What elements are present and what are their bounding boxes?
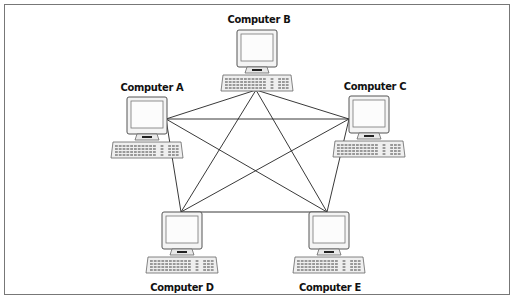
- computer-label: Computer E: [299, 281, 362, 294]
- computer-e: Computer E: [293, 212, 365, 294]
- screen: [166, 216, 198, 243]
- computers: Computer AComputer BComputer CComputer D…: [111, 13, 406, 294]
- connection-c-e: [327, 119, 349, 212]
- screen: [313, 216, 345, 243]
- computer-label: Computer A: [121, 81, 185, 94]
- computer-b: Computer B: [221, 13, 293, 91]
- computer-label: Computer C: [344, 80, 407, 93]
- drive-slot: [324, 251, 334, 253]
- keyboard-icon: [221, 75, 293, 91]
- connection-a-b: [166, 90, 256, 119]
- connection-c-d: [181, 119, 349, 212]
- drive-slot: [142, 136, 152, 138]
- connection-b-d: [181, 90, 256, 212]
- screen: [131, 101, 163, 128]
- drive-slot: [177, 251, 187, 253]
- screen: [353, 100, 385, 127]
- network-diagram: Computer AComputer BComputer CComputer D…: [0, 0, 516, 301]
- drive-slot: [364, 135, 374, 137]
- computer-icon: [333, 96, 405, 157]
- computer-icon: [146, 212, 218, 273]
- screen: [241, 34, 273, 61]
- computer-icon: [293, 212, 365, 273]
- computer-icon: [111, 97, 183, 158]
- computer-d: Computer D: [146, 212, 218, 294]
- computer-label: Computer D: [150, 281, 214, 294]
- keyboard-icon: [333, 141, 405, 157]
- connection-a-d: [166, 119, 181, 212]
- computer-label: Computer B: [228, 13, 291, 26]
- computer-a: Computer A: [111, 81, 184, 158]
- keyboard-icon: [146, 257, 218, 273]
- keyboard-icon: [293, 257, 365, 273]
- computer-icon: [221, 30, 293, 91]
- drive-slot: [252, 69, 262, 71]
- connections: [166, 90, 349, 212]
- keyboard-icon: [111, 142, 183, 158]
- connection-a-e: [166, 119, 327, 212]
- computer-c: Computer C: [333, 80, 406, 157]
